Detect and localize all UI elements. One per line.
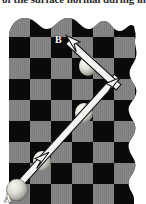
checkerboard-illustration: B A <box>0 0 146 204</box>
label-point-a: A <box>4 193 12 204</box>
figure-root: of the surface normal during im <box>0 0 146 204</box>
label-point-b: B <box>55 34 62 45</box>
board-squares-group <box>0 0 146 204</box>
